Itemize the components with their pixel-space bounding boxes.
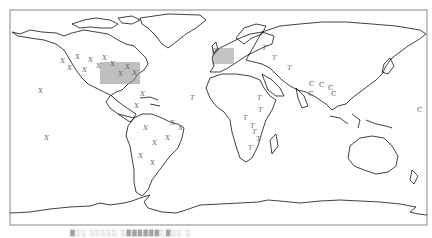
map-marker-t: T	[190, 94, 196, 102]
coastlines	[10, 14, 427, 215]
map-marker-x: X	[95, 62, 102, 70]
central-america-outline	[118, 97, 160, 122]
map-marker-x: X	[124, 63, 131, 71]
map-marker-x: X	[137, 152, 144, 160]
map-marker-x: X	[101, 54, 108, 62]
map-marker-x: X	[74, 53, 81, 61]
map-marker-t: T	[272, 54, 278, 62]
map-marker-t: T	[243, 114, 249, 122]
europe-cluster	[212, 48, 234, 64]
greenland-outline	[140, 14, 206, 48]
map-marker-x: X	[117, 70, 124, 78]
map-marker-x: X	[59, 57, 66, 65]
map-marker-t: T	[258, 106, 264, 114]
map-marker-t: T	[248, 144, 254, 152]
madagascar-outline	[270, 134, 278, 154]
japan-outline	[382, 58, 394, 74]
map-marker-x: X	[169, 119, 176, 127]
map-marker-c: C	[308, 90, 313, 98]
world-map: XXXXXXXXXXXXXXXXXXXXXXTTTTTTTTTTTCCCCCC	[0, 0, 432, 238]
antarctica-outline	[10, 195, 427, 215]
indonesia-outline	[330, 114, 392, 128]
canadian-arctic-islands	[72, 16, 140, 28]
map-marker-x: X	[177, 124, 184, 132]
map-marker-c: C	[417, 106, 422, 114]
map-caption: ▓░░ ░░░░░ ░▓▓▓▓▓▓░▓░░ ░	[70, 229, 191, 236]
new-zealand-outline	[410, 170, 418, 184]
map-marker-x: X	[37, 87, 44, 95]
map-marker-t: T	[257, 94, 263, 102]
map-marker-x: X	[139, 90, 146, 98]
map-marker-x: X	[66, 64, 73, 72]
south-america-outline	[126, 114, 184, 196]
map-marker-x: X	[109, 60, 116, 68]
map-marker-x: X	[149, 159, 156, 167]
map-marker-x: X	[133, 102, 140, 110]
map-marker-x: X	[142, 124, 149, 132]
map-marker-c: C	[309, 80, 314, 88]
map-marker-x: X	[164, 134, 171, 142]
map-marker-x: X	[81, 66, 88, 74]
map-frame	[10, 10, 427, 225]
map-marker-x: X	[87, 56, 94, 64]
map-marker-t: T	[262, 44, 268, 52]
map-marker-x: X	[151, 139, 158, 147]
africa-outline	[206, 74, 276, 162]
map-marker-t: T	[287, 64, 293, 72]
map-marker-c: C	[319, 81, 324, 89]
map-marker-x: X	[43, 134, 50, 142]
map-marker-c: C	[331, 90, 336, 98]
map-marker-x: X	[131, 69, 138, 77]
australia-outline	[348, 136, 398, 174]
